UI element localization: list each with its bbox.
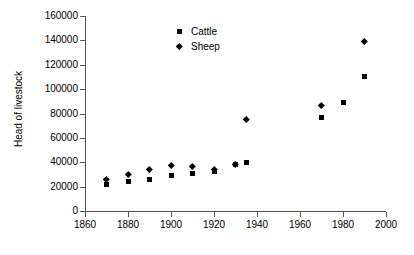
y-tick-label: 40000 [30, 157, 78, 167]
data-point-cattle [147, 177, 152, 182]
y-tick-label-wrap: 80000 [22, 109, 78, 119]
y-tick-mark [80, 65, 85, 66]
y-tick-mark [80, 89, 85, 90]
square-marker-icon [172, 29, 186, 34]
data-point-cattle [362, 74, 367, 79]
y-tick-label: 80000 [30, 109, 78, 119]
y-tick-label-wrap: 0 [22, 206, 78, 216]
legend-item-cattle[interactable]: Cattle [172, 24, 220, 39]
legend-label: Cattle [186, 27, 217, 37]
y-tick-label: 140000 [30, 35, 78, 45]
y-tick-mark [80, 162, 85, 163]
y-tick-mark [80, 114, 85, 115]
data-point-cattle [169, 173, 174, 178]
x-tick-mark [171, 212, 172, 217]
legend-item-sheep[interactable]: Sheep [172, 39, 220, 54]
y-tick-mark [80, 40, 85, 41]
x-tick-label: 1920 [194, 220, 234, 230]
data-point-cattle [126, 179, 131, 184]
x-tick-label: 1900 [151, 220, 191, 230]
y-tick-label-wrap: 140000 [22, 35, 78, 45]
x-tick-label: 1960 [280, 220, 320, 230]
y-tick-label-wrap: 40000 [22, 157, 78, 167]
data-point-sheep [318, 102, 324, 108]
y-tick-label: 60000 [30, 133, 78, 143]
x-tick-mark [85, 212, 86, 217]
diamond-marker-icon [172, 44, 186, 49]
data-point-sheep [125, 171, 131, 177]
y-tick-mark [80, 16, 85, 17]
y-tick-label-wrap: 100000 [22, 84, 78, 94]
y-tick-label-wrap: 60000 [22, 133, 78, 143]
x-axis-line [85, 211, 386, 212]
y-tick-label: 0 [30, 206, 78, 216]
x-tick-label: 1940 [237, 220, 277, 230]
x-tick-label: 1980 [323, 220, 363, 230]
data-point-cattle [319, 115, 324, 120]
x-tick-mark [300, 212, 301, 217]
data-point-sheep [146, 166, 152, 172]
y-tick-label: 20000 [30, 182, 78, 192]
data-point-sheep [243, 116, 249, 122]
data-point-sheep [168, 162, 174, 168]
data-point-cattle [190, 171, 195, 176]
chart-legend: Cattle Sheep [172, 24, 220, 54]
x-tick-mark [257, 212, 258, 217]
x-tick-label: 2000 [366, 220, 406, 230]
y-tick-label-wrap: 20000 [22, 182, 78, 192]
data-point-sheep [189, 163, 195, 169]
y-tick-label: 100000 [30, 84, 78, 94]
data-point-cattle [104, 182, 109, 187]
y-axis-title: Head of livestock [14, 54, 24, 164]
x-tick-mark [343, 212, 344, 217]
x-tick-label: 1880 [108, 220, 148, 230]
y-tick-label-wrap: 120000 [22, 60, 78, 70]
y-tick-label: 160000 [30, 11, 78, 21]
y-tick-mark [80, 138, 85, 139]
y-tick-mark [80, 187, 85, 188]
x-tick-label: 1860 [65, 220, 105, 230]
data-point-cattle [244, 160, 249, 165]
data-point-cattle [341, 100, 346, 105]
data-point-sheep [361, 38, 367, 44]
y-tick-label-wrap: 160000 [22, 11, 78, 21]
x-tick-mark [386, 212, 387, 217]
y-axis-line [85, 16, 86, 212]
x-tick-mark [128, 212, 129, 217]
scatter-chart: 0200004000060000800001000001200001400001… [0, 0, 414, 255]
y-tick-label: 120000 [30, 60, 78, 70]
x-tick-mark [214, 212, 215, 217]
legend-label: Sheep [186, 42, 220, 52]
